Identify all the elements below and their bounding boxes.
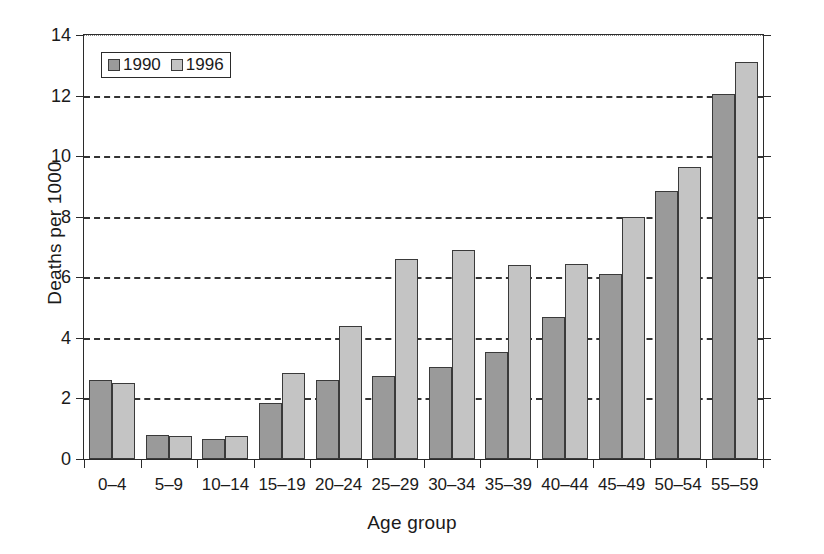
y-axis-tick-right — [763, 156, 771, 157]
legend-swatch-icon-1990 — [108, 59, 120, 71]
x-axis-tick-label: 15–19 — [258, 475, 305, 495]
x-axis-tick-label: 10–14 — [202, 475, 249, 495]
y-axis-tick-right — [763, 217, 771, 218]
x-axis-tick — [84, 459, 85, 468]
bar-1990-55-59 — [712, 94, 735, 459]
bar-1996-20-24 — [339, 326, 362, 459]
bar-1990-35-39 — [485, 352, 508, 460]
bar-1990-25-29 — [372, 376, 395, 459]
y-axis-tick-right — [763, 398, 771, 399]
bar-1996-35-39 — [508, 265, 531, 459]
y-axis-tick — [76, 398, 84, 399]
y-axis-tick-label: 12 — [51, 85, 71, 106]
gridline — [84, 35, 763, 36]
bar-1996-50-54 — [678, 167, 701, 459]
x-axis-tick — [310, 459, 311, 468]
x-axis-title: Age group — [0, 512, 824, 534]
x-axis-tick — [141, 459, 142, 468]
x-axis-tick — [254, 459, 255, 468]
bar-1996-25-29 — [395, 259, 418, 459]
y-axis-tick-label: 0 — [61, 449, 71, 470]
legend-entry-1990: 1990 — [108, 56, 161, 73]
y-axis-tick-right — [763, 35, 771, 36]
y-axis-tick-label: 8 — [61, 206, 71, 227]
y-axis-tick-label: 4 — [61, 327, 71, 348]
x-axis-tick — [197, 459, 198, 468]
y-axis-tick-right — [763, 277, 771, 278]
x-axis-tick-label: 35–39 — [485, 475, 532, 495]
y-axis-tick-label: 14 — [51, 25, 71, 46]
bar-1990-50-54 — [655, 191, 678, 459]
y-axis-tick-label: 2 — [61, 388, 71, 409]
y-axis-tick — [76, 156, 84, 157]
plot-area: 02468101214 0–45–910–1415–1920–2425–2930… — [83, 34, 764, 460]
bar-1996-10-14 — [225, 436, 248, 459]
x-axis-tick — [537, 459, 538, 468]
x-axis-tick-label: 5–9 — [155, 475, 183, 495]
x-axis-tick — [480, 459, 481, 468]
bar-1990-20-24 — [316, 380, 339, 459]
gridline — [84, 156, 763, 158]
bar-1990-5-9 — [146, 435, 169, 459]
y-axis-tick — [76, 338, 84, 339]
x-axis-tick-label: 30–34 — [428, 475, 475, 495]
bar-1996-0-4 — [112, 383, 135, 459]
y-axis-tick — [76, 459, 84, 460]
x-axis-tick — [367, 459, 368, 468]
bar-1996-30-34 — [452, 250, 475, 459]
y-axis-tick — [76, 35, 84, 36]
bar-1990-40-44 — [542, 317, 565, 459]
y-axis-tick-right — [763, 96, 771, 97]
x-axis-tick — [593, 459, 594, 468]
bar-chart-figure: Deaths per 1000 Age group 02468101214 0–… — [0, 0, 824, 554]
bar-1990-30-34 — [429, 367, 452, 459]
legend-entry-1996: 1996 — [171, 56, 224, 73]
legend-label: 1996 — [186, 56, 224, 73]
x-axis-tick-label: 0–4 — [98, 475, 126, 495]
x-axis-tick-label: 40–44 — [541, 475, 588, 495]
x-axis-tick-label: 25–29 — [372, 475, 419, 495]
x-axis-tick — [706, 459, 707, 468]
x-axis-tick-label: 50–54 — [654, 475, 701, 495]
bar-1996-15-19 — [282, 373, 305, 459]
bar-1996-55-59 — [735, 62, 758, 459]
bar-1996-45-49 — [622, 217, 645, 459]
legend-swatch-icon-1996 — [171, 59, 183, 71]
x-axis-tick-label: 45–49 — [598, 475, 645, 495]
bar-1990-10-14 — [202, 439, 225, 459]
bar-1990-45-49 — [599, 274, 622, 459]
y-axis-tick-label: 6 — [61, 267, 71, 288]
bar-1996-40-44 — [565, 264, 588, 459]
y-axis-tick — [76, 277, 84, 278]
bar-1990-15-19 — [259, 403, 282, 459]
y-axis-tick — [76, 217, 84, 218]
x-axis-tick-label: 55–59 — [711, 475, 758, 495]
gridline — [84, 96, 763, 98]
y-axis-tick-right — [763, 459, 771, 460]
legend: 19901996 — [101, 52, 231, 78]
x-axis-tick — [650, 459, 651, 468]
x-axis-tick-label: 20–24 — [315, 475, 362, 495]
y-axis-tick-label: 10 — [51, 146, 71, 167]
bar-1990-0-4 — [89, 380, 112, 459]
y-axis-tick-right — [763, 338, 771, 339]
x-axis-tick — [424, 459, 425, 468]
legend-label: 1990 — [123, 56, 161, 73]
bar-1996-5-9 — [169, 436, 192, 459]
y-axis-tick — [76, 96, 84, 97]
x-axis-tick — [763, 459, 764, 468]
